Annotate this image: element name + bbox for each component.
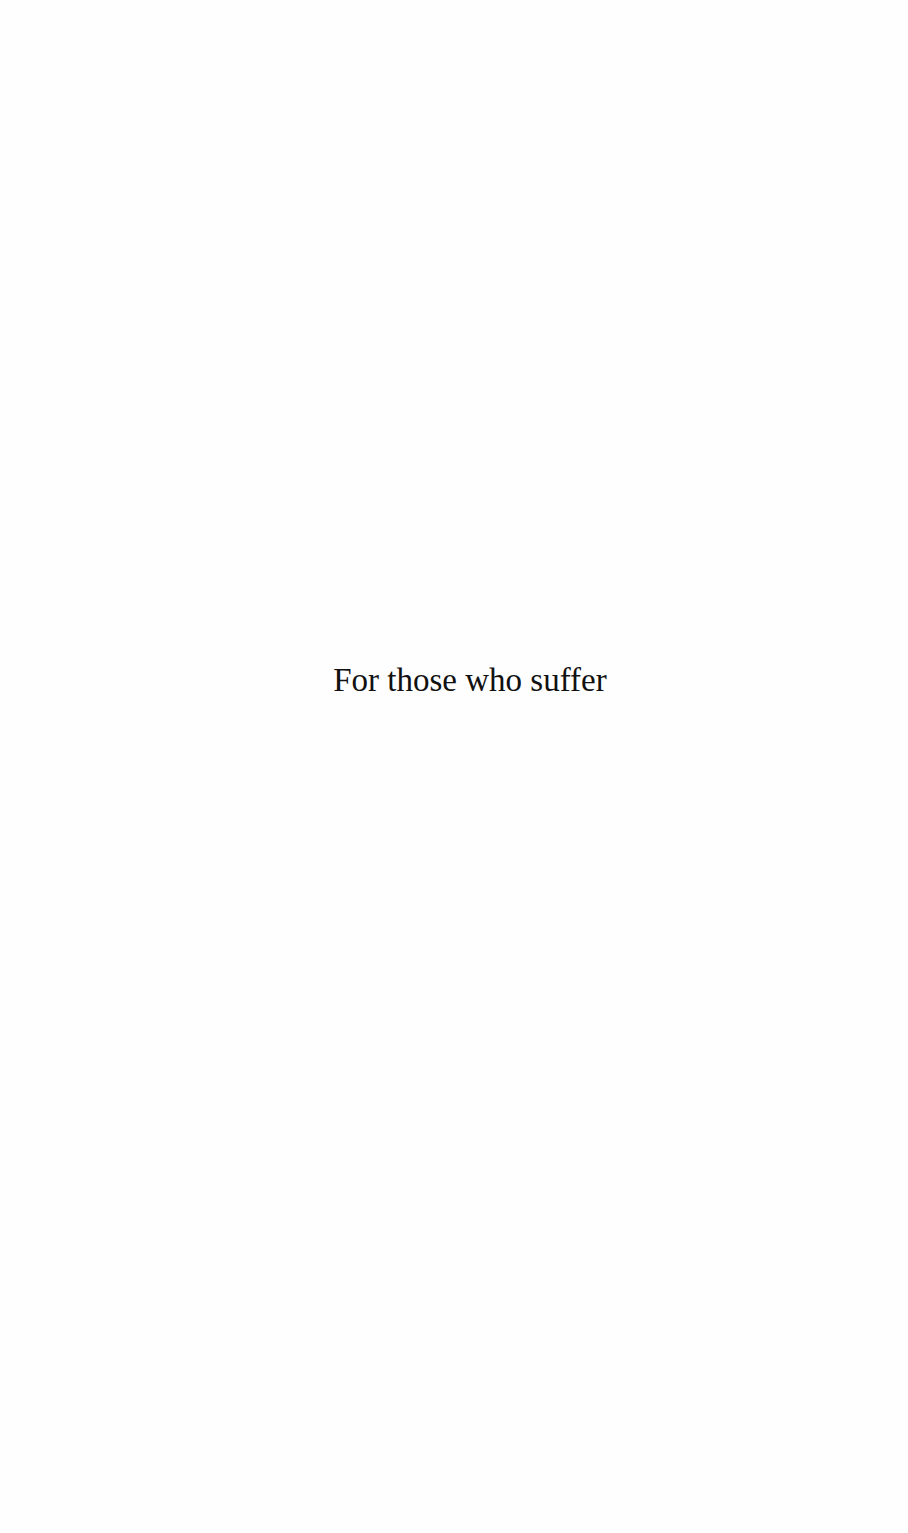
dedication-text: For those who suffer (0, 658, 908, 702)
document-page: For those who suffer (0, 0, 908, 1533)
